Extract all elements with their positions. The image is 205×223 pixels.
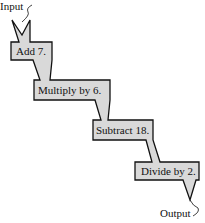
input-arrow — [22, 5, 32, 22]
output-label: Output — [160, 207, 191, 219]
step-subtract: Subtract 18. — [96, 124, 149, 136]
step-add: Add 7. — [16, 45, 46, 57]
output-arrow — [190, 200, 198, 216]
step-multiply: Multiply by 6. — [38, 84, 101, 96]
input-label: Input — [0, 0, 23, 12]
step-divide: Divide by 2. — [141, 165, 196, 177]
flow-machine — [0, 0, 205, 223]
